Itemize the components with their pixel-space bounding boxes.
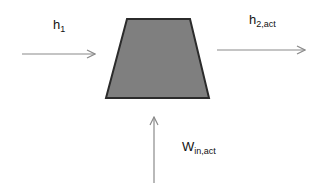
outlet-enthalpy-label: h2,act [249,13,276,29]
work-input-label: Win,act [182,140,216,156]
inlet-enthalpy-label: h1 [53,18,65,34]
work-symbol: W [182,139,194,154]
compressor-trapezoid [106,19,209,98]
outlet-subscript: 2,act [256,19,276,29]
inlet-subscript: 1 [60,24,65,34]
work-subscript: in,act [194,146,216,156]
